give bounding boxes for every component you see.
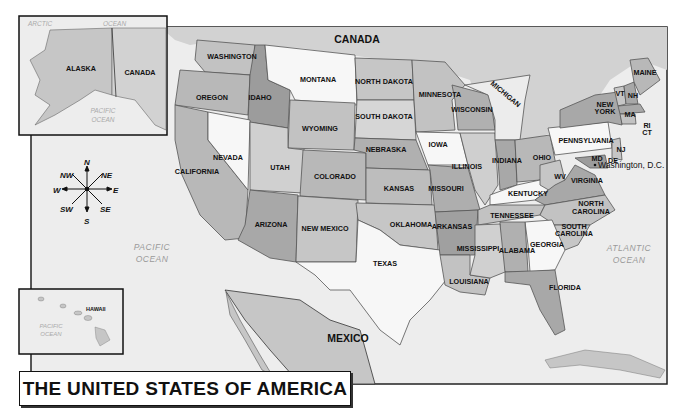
- label-colorado: COLORADO: [314, 172, 356, 181]
- label-nevada: NEVADA: [213, 153, 243, 162]
- label-maine: MAINE: [633, 68, 656, 77]
- label-hawaii: HAWAII: [86, 306, 106, 312]
- label-ct: CT: [642, 128, 652, 137]
- label-wisconsin: WISCONSIN: [451, 105, 493, 114]
- label-virginia: VIRGINIA: [571, 176, 603, 185]
- svg-text:OCEAN: OCEAN: [40, 331, 62, 337]
- svg-text:SE: SE: [100, 205, 111, 214]
- svg-text:PACIFIC: PACIFIC: [39, 323, 63, 329]
- label-idaho: IDAHO: [248, 93, 272, 102]
- label-canada: CANADA: [334, 33, 380, 45]
- svg-text:OCEAN: OCEAN: [91, 116, 114, 123]
- label-illinois: ILLINOIS: [452, 162, 483, 171]
- label-capital: Washington, D.C.: [598, 160, 664, 170]
- label-nj: NJ: [616, 145, 625, 154]
- svg-text:S: S: [84, 217, 90, 226]
- label-alaska-canada: CANADA: [124, 68, 155, 77]
- label-georgia: GEORGIA: [530, 240, 564, 249]
- label-utah: UTAH: [270, 163, 289, 172]
- capital-marker-icon: [594, 164, 597, 167]
- label-florida: FLORIDA: [549, 283, 581, 292]
- label-atlantic-1: ATLANTIC: [606, 243, 652, 253]
- svg-text:SW: SW: [60, 205, 74, 214]
- svg-text:PACIFIC: PACIFIC: [90, 107, 115, 114]
- label-ohio: OHIO: [533, 153, 552, 162]
- label-kentucky: KENTUCKY: [508, 189, 548, 198]
- map-title: THE UNITED STATES OF AMERICA: [23, 378, 348, 400]
- label-oklahoma: OKLAHOMA: [390, 220, 432, 229]
- map-title-box: THE UNITED STATES OF AMERICA: [19, 371, 351, 406]
- label-iowa: IOWA: [428, 140, 447, 149]
- label-arizona: ARIZONA: [255, 220, 288, 229]
- label-wv: WV: [554, 172, 566, 181]
- label-ma: MA: [624, 110, 635, 119]
- hawaii-inset: HAWAII PACIFIC OCEAN: [19, 289, 123, 354]
- label-oregon: OREGON: [196, 93, 228, 102]
- label-mexico: MEXICO: [327, 332, 368, 344]
- label-atlantic-2: OCEAN: [613, 255, 646, 265]
- svg-text:OCEAN: OCEAN: [103, 20, 126, 27]
- us-map: CANADA WASHINGTON OREGON IDAHO MONTANA N…: [0, 0, 681, 416]
- label-nebraska: NEBRASKA: [366, 145, 407, 154]
- label-california: CALIFORNIA: [175, 167, 219, 176]
- label-pacific-2: OCEAN: [136, 254, 169, 264]
- label-kansas: KANSAS: [384, 184, 415, 193]
- alaska-inset: ARCTIC OCEAN ALASKA CANADA PACIFIC OCEAN: [19, 16, 167, 135]
- label-south-carolina-2: CAROLINA: [555, 229, 593, 238]
- label-pennsylvania: PENNSYLVANIA: [558, 136, 613, 145]
- label-missouri: MISSOURI: [428, 184, 464, 193]
- label-nh: NH: [628, 91, 638, 100]
- label-indiana: INDIANA: [492, 156, 522, 165]
- label-south-dakota: SOUTH DAKOTA: [355, 112, 412, 121]
- label-new-york-2: YORK: [595, 107, 617, 116]
- label-alaska: ALASKA: [66, 64, 96, 73]
- label-louisiana: LOUISIANA: [449, 277, 489, 286]
- label-minnesota: MINNESOTA: [419, 90, 462, 99]
- label-vt: VT: [615, 89, 625, 98]
- label-north-carolina-2: CAROLINA: [572, 207, 610, 216]
- svg-text:E: E: [113, 186, 119, 195]
- label-new-mexico: NEW MEXICO: [301, 224, 349, 233]
- svg-text:NE: NE: [101, 171, 113, 180]
- label-tennessee: TENNESSEE: [490, 211, 534, 220]
- svg-text:NW: NW: [60, 171, 75, 180]
- label-pacific-1: PACIFIC: [134, 242, 171, 252]
- label-north-dakota: NORTH DAKOTA: [355, 77, 413, 86]
- svg-text:ARCTIC: ARCTIC: [27, 20, 53, 27]
- label-mississippi: MISSISSIPPI: [457, 244, 500, 253]
- label-arkansas: ARKANSAS: [432, 222, 473, 231]
- label-washington: WASHINGTON: [207, 52, 256, 61]
- svg-text:N: N: [84, 158, 90, 167]
- label-wyoming: WYOMING: [302, 124, 338, 133]
- label-texas: TEXAS: [373, 259, 397, 268]
- label-montana: MONTANA: [300, 75, 336, 84]
